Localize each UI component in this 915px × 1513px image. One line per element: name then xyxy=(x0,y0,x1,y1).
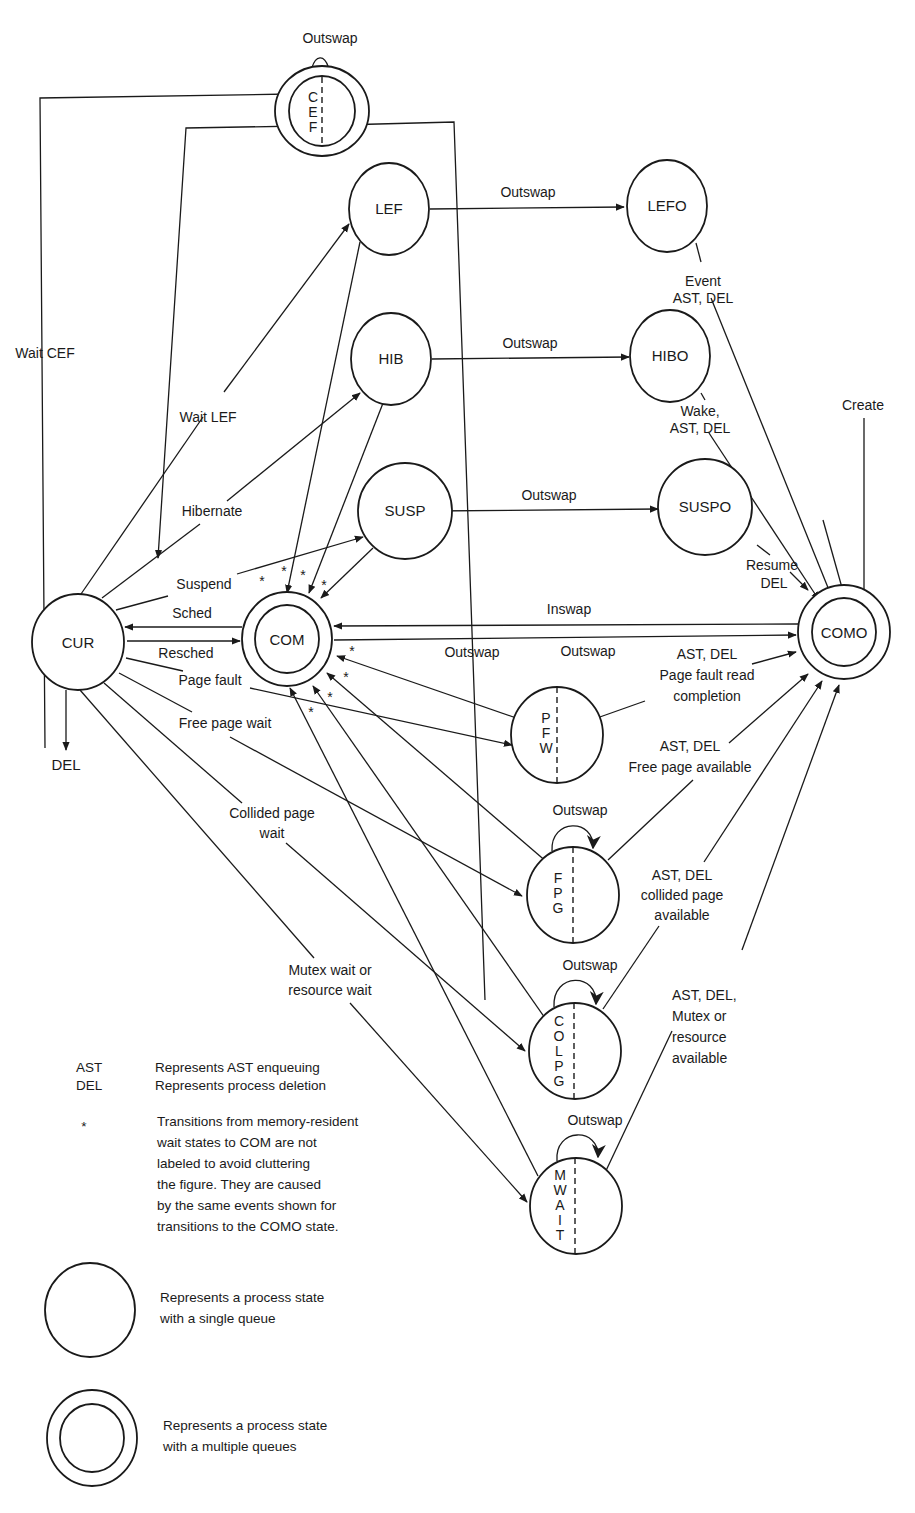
label-mwait-como-2: Mutex or xyxy=(672,1008,727,1024)
label-mwait-outswap: Outswap xyxy=(567,1112,622,1128)
label-lefo-como-2: AST, DEL xyxy=(673,290,734,306)
state-lef: LEF xyxy=(349,163,429,255)
svg-text:SUSPO: SUSPO xyxy=(679,498,732,515)
legend-single-desc-1: Represents a process state xyxy=(160,1290,324,1305)
legend-star-key: * xyxy=(81,1119,87,1134)
label-lefo-como-1: Event xyxy=(685,273,721,289)
svg-text:O: O xyxy=(554,1028,565,1044)
label-mutex-wait-1: Mutex wait or xyxy=(288,962,372,978)
label-wait-cef: Wait CEF xyxy=(15,345,74,361)
legend-star-desc-4: the figure. They are caused xyxy=(157,1177,321,1192)
star-4: * xyxy=(321,577,327,593)
star-7: * xyxy=(327,689,333,705)
svg-text:F: F xyxy=(554,870,563,886)
legend-multiple-desc-2: with a multiple queues xyxy=(162,1439,297,1454)
legend-star-desc-2: wait states to COM are not xyxy=(156,1135,317,1150)
label-suspo-como-1: Resume xyxy=(746,557,798,573)
label-pfw-outswap: Outswap xyxy=(560,643,615,659)
svg-text:C: C xyxy=(308,89,318,105)
legend-star-desc-3: labeled to avoid cluttering xyxy=(157,1156,310,1171)
label-colpg-como-3: available xyxy=(654,907,709,923)
label-fpg-outswap: Outswap xyxy=(552,802,607,818)
edges xyxy=(40,58,864,1202)
edge-hibernate xyxy=(227,393,360,501)
label-collided-page-wait-1: Collided page xyxy=(229,805,315,821)
label-inswap: Inswap xyxy=(547,601,592,617)
svg-text:P: P xyxy=(541,710,550,726)
label-wait-lef: Wait LEF xyxy=(179,409,236,425)
svg-text:F: F xyxy=(542,725,551,741)
edge-lef-lefo xyxy=(430,207,624,209)
svg-text:A: A xyxy=(555,1197,565,1213)
star-6: * xyxy=(343,669,349,685)
svg-text:COM: COM xyxy=(270,631,305,648)
svg-text:W: W xyxy=(539,740,553,756)
edge-page-fault xyxy=(250,688,512,745)
label-pfw-como-3: completion xyxy=(673,688,741,704)
label-fpg-como-2: Free page available xyxy=(629,759,752,775)
star-8: * xyxy=(308,704,314,720)
edge-labels: Outswap Outswap Outswap Outswap Event AS… xyxy=(15,30,884,1128)
label-com-como-outswap: Outswap xyxy=(444,644,499,660)
label-page-fault: Page fault xyxy=(178,672,241,688)
label-mutex-wait-2: resource wait xyxy=(288,982,371,998)
edge-lef-com xyxy=(287,242,360,593)
edge-hib-hibo xyxy=(432,357,629,359)
star-5: * xyxy=(349,643,355,659)
process-state-diagram: C E F LEF LEFO HIB HIBO SUSP SUSPO xyxy=(0,0,915,1513)
label-mwait-como-1: AST, DEL, xyxy=(672,987,737,1003)
svg-text:COMO: COMO xyxy=(821,624,868,641)
label-cef-outswap: Outswap xyxy=(302,30,357,46)
legend-del-key: DEL xyxy=(76,1078,103,1093)
legend: AST Represents AST enqueuing DEL Represe… xyxy=(45,1060,359,1486)
state-hibo: HIBO xyxy=(630,310,710,402)
label-suspo-como-2: DEL xyxy=(760,575,787,591)
legend-multiple-queue-icon xyxy=(47,1390,137,1486)
edge-mwait-como xyxy=(742,685,839,950)
star-2: * xyxy=(281,563,287,579)
state-hib: HIB xyxy=(351,313,431,405)
edge-cef-como xyxy=(340,122,485,1000)
state-fpg: F P G xyxy=(527,847,619,943)
state-mwait: M W A I T xyxy=(530,1158,622,1254)
state-susp: SUSP xyxy=(358,463,452,559)
label-free-page-wait: Free page wait xyxy=(179,715,272,731)
label-hibernate: Hibernate xyxy=(182,503,243,519)
label-suspend: Suspend xyxy=(176,576,231,592)
legend-star-desc-5: by the same events shown for xyxy=(157,1198,337,1213)
svg-text:P: P xyxy=(553,885,562,901)
edge-lefo-como xyxy=(711,298,833,600)
svg-text:LEF: LEF xyxy=(375,200,403,217)
svg-text:HIB: HIB xyxy=(378,350,403,367)
label-lef-outswap: Outswap xyxy=(500,184,555,200)
svg-text:E: E xyxy=(308,104,317,120)
label-create: Create xyxy=(842,397,884,413)
svg-text:CUR: CUR xyxy=(62,634,95,651)
label-hibo-como-2: AST, DEL xyxy=(670,420,731,436)
edge-collided-page-wait xyxy=(286,843,525,1051)
legend-single-queue-icon xyxy=(45,1263,135,1357)
svg-text:P: P xyxy=(554,1058,563,1074)
svg-text:SUSP: SUSP xyxy=(385,502,426,519)
edge-wait-lef xyxy=(224,224,349,392)
edge-mwait-com xyxy=(290,688,538,1176)
svg-text:C: C xyxy=(554,1013,564,1029)
label-fpg-como-1: AST, DEL xyxy=(660,738,721,754)
svg-text:T: T xyxy=(556,1227,565,1243)
state-del: DEL xyxy=(51,756,80,773)
label-hib-outswap: Outswap xyxy=(502,335,557,351)
edge-pfw-com xyxy=(337,656,522,720)
state-cef: C E F xyxy=(275,66,369,156)
label-pfw-como-2: Page fault read xyxy=(660,667,755,683)
state-suspo: SUSPO xyxy=(658,459,752,555)
edge-inswap xyxy=(334,624,798,626)
svg-text:M: M xyxy=(554,1167,566,1183)
label-mwait-como-4: available xyxy=(672,1050,727,1066)
edge-fpg-como xyxy=(729,674,808,743)
svg-text:G: G xyxy=(553,900,564,916)
svg-text:L: L xyxy=(555,1043,563,1059)
legend-star-desc-6: transitions to the COMO state. xyxy=(157,1219,339,1234)
edge-susp-suspo xyxy=(431,509,658,511)
label-pfw-como-1: AST, DEL xyxy=(677,646,738,662)
star-3: * xyxy=(300,567,306,583)
